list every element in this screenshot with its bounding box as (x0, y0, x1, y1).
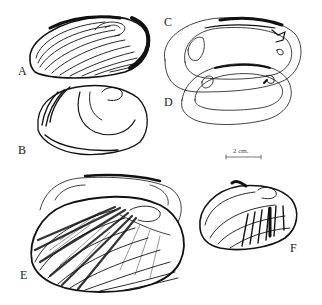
scale-bar-label: 2 cm. (233, 148, 249, 155)
panel-label-f: F (290, 242, 297, 254)
shell-e-drawing (31, 175, 184, 292)
shell-f-drawing (200, 182, 297, 250)
shell-figure: A B C D E F 2 cm. (0, 0, 322, 305)
panel-label-e: E (20, 269, 27, 281)
shell-a-drawing (30, 17, 149, 78)
shell-d-drawing (182, 64, 292, 125)
panel-label-d: D (164, 96, 173, 108)
panel-label-c: C (164, 16, 172, 28)
scale-bar (226, 155, 261, 159)
shell-c-drawing (164, 18, 301, 92)
shell-b-drawing (38, 86, 147, 155)
shell-drawings (0, 0, 322, 305)
panel-label-b: B (18, 144, 26, 156)
panel-label-a: A (18, 65, 27, 77)
